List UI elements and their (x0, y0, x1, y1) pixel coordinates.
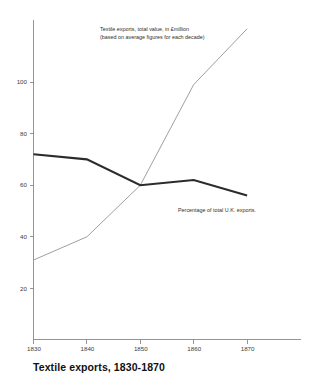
x-tick-label-1860: 1860 (187, 345, 201, 352)
y-tick-label-80: 80 (20, 130, 27, 137)
y-tick-label-20: 20 (20, 285, 27, 292)
line-chart: 20 40 60 80 100 1830 1840 1850 1860 1870 (0, 0, 319, 383)
chart-caption: Textile exports, 1830-1870 (33, 361, 165, 373)
chart-figure: 20 40 60 80 100 1830 1840 1850 1860 1870 (0, 0, 319, 383)
annotation-total-value-line2: (based on average figures for each decad… (100, 34, 205, 40)
annotation-percentage: Percentage of total U.K. exports. (178, 207, 256, 213)
x-tick-label-1850: 1850 (134, 345, 148, 352)
y-tick-label-100: 100 (17, 78, 28, 85)
x-tick-label-1870: 1870 (241, 345, 255, 352)
y-tick-label-60: 60 (20, 181, 27, 188)
x-tick-label-1840: 1840 (81, 345, 95, 352)
chart-background (0, 0, 319, 383)
x-tick-label-1830: 1830 (27, 345, 41, 352)
annotation-total-value-line1: Textile exports, total value, in £millio… (100, 26, 189, 32)
y-tick-label-40: 40 (20, 233, 27, 240)
